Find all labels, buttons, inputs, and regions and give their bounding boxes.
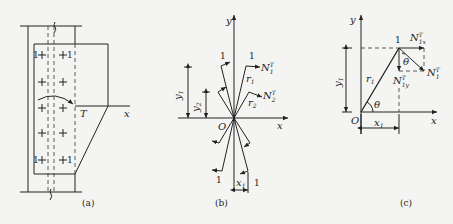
force-arrow xyxy=(221,62,230,66)
x1-label: x1 xyxy=(236,177,245,189)
x-axis-label: x xyxy=(431,115,437,126)
r1-label: r1 xyxy=(246,73,255,85)
x1-label: x1 xyxy=(374,117,383,129)
radius-r2-left xyxy=(218,92,234,118)
force-arrow xyxy=(212,170,222,171)
y1-label: y1 xyxy=(332,78,344,88)
torque-label: T xyxy=(80,108,88,119)
bolt-1-label: 1 xyxy=(216,175,222,185)
radius-r2-right xyxy=(234,92,249,118)
bolt-1-label: 1 xyxy=(254,178,260,188)
figure-b: y x O 1 1 1 1 NT1 NT2 r1 r2 y1 xyxy=(172,15,288,208)
origin-label: O xyxy=(218,121,226,132)
y-axis-label: y xyxy=(225,15,232,26)
n1-label: NT1 xyxy=(426,66,441,80)
radius-r1-right xyxy=(234,66,246,118)
r1-label: r1 xyxy=(366,73,375,85)
r2-label: r2 xyxy=(248,97,257,109)
n1x-label: NT1x xyxy=(409,31,427,45)
figure-a: x T 1 1 1 1 (a) xyxy=(20,22,130,208)
bolt-1-label: 1 xyxy=(67,155,73,165)
radius-r1-left xyxy=(221,66,234,118)
bolt-1-label: 1 xyxy=(33,155,39,165)
bolt-1-label: 1 xyxy=(249,51,255,61)
bolt-1-label: 1 xyxy=(220,51,226,61)
n2-label: NT2 xyxy=(262,89,277,103)
bolt-group-torsion-diagram: x T 1 1 1 1 (a) y x O xyxy=(0,0,453,224)
caption-c: (c) xyxy=(400,198,412,208)
origin-label: O xyxy=(351,115,359,126)
n1-label: NT1 xyxy=(260,61,275,75)
theta-label: θ xyxy=(374,99,380,110)
force-n1-arrow xyxy=(246,66,260,67)
force-arrow xyxy=(244,143,250,147)
caption-b: (b) xyxy=(215,198,228,208)
y-axis-label: y xyxy=(349,14,356,25)
x-axis-label: x xyxy=(277,120,283,131)
bolt-1-label: 1 xyxy=(395,35,401,45)
break-mark-bottom-icon xyxy=(50,189,52,200)
torque-arrow-icon xyxy=(38,96,73,104)
radius-lower-right xyxy=(234,118,248,171)
bolt-1-label: 1 xyxy=(67,50,73,60)
caption-a: (a) xyxy=(82,198,94,208)
y2-label: y2 xyxy=(190,102,202,113)
force-arrow xyxy=(212,141,219,143)
bolt-group xyxy=(38,51,67,164)
theta-arc xyxy=(367,102,373,112)
n1y-label: NT1y xyxy=(392,74,410,89)
figure-c: y x O 1 θ θ r1 NT1x NT1 NT1y y1 x1 (c) xyxy=(332,14,441,208)
bolt-1-label: 1 xyxy=(33,50,39,60)
theta-label: θ xyxy=(403,56,409,67)
x-axis-label: x xyxy=(124,108,130,119)
radius-lower-right-2 xyxy=(234,118,250,143)
force-arrow xyxy=(218,87,226,92)
y1-label: y1 xyxy=(172,91,184,101)
force-arrow xyxy=(240,171,248,174)
